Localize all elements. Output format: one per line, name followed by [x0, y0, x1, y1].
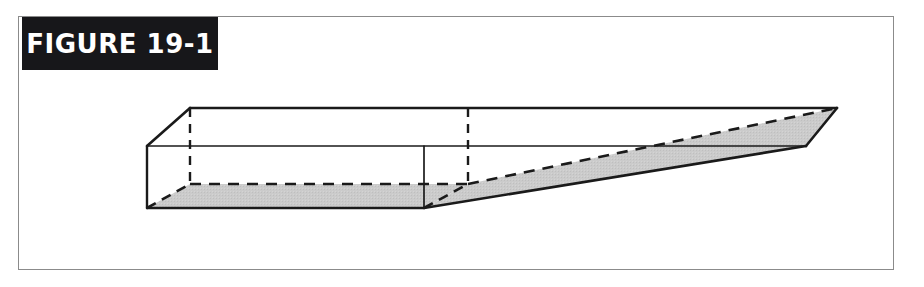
figure-label-text: FIGURE 19-1	[26, 31, 213, 57]
figure-page: FIGURE 19-1	[0, 0, 924, 287]
figure-label-banner: FIGURE 19-1	[22, 17, 218, 70]
